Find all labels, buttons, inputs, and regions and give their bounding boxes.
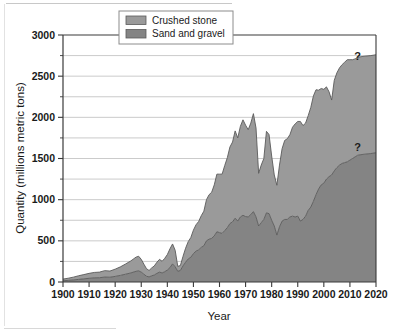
x-tick-label: 2010	[338, 288, 362, 300]
x-tick-label: 2000	[312, 288, 336, 300]
annotation-question-mark: ?	[354, 50, 361, 62]
x-tick-label: 1980	[260, 288, 284, 300]
y-axis-tick-labels: 050010001500200025003000	[32, 29, 56, 288]
y-tick-label: 1500	[32, 152, 56, 164]
y-tick-label: 3000	[32, 29, 56, 41]
x-tick-label: 1970	[234, 288, 258, 300]
legend-swatch-crushed-stone	[126, 16, 146, 25]
y-tick-label: 2000	[32, 111, 56, 123]
y-tick-label: 1000	[32, 193, 56, 205]
y-tick-label: 0	[49, 276, 55, 288]
x-axis-title: Year	[207, 310, 230, 322]
x-tick-label: 1900	[51, 288, 75, 300]
x-tick-label: 1990	[286, 288, 310, 300]
x-tick-label: 2020	[364, 288, 388, 300]
x-axis-ticks	[63, 282, 376, 287]
y-tick-label: 2500	[32, 70, 56, 82]
x-tick-label: 1930	[130, 288, 154, 300]
x-axis-tick-labels: 1900191019201930194019501960197019801990…	[51, 288, 388, 300]
x-tick-label: 1920	[103, 288, 127, 300]
legend-label-crushed-stone: Crushed stone	[152, 15, 217, 26]
x-tick-label: 1950	[182, 288, 206, 300]
legend-label-sand-and-gravel: Sand and gravel	[152, 28, 225, 39]
x-tick-label: 1940	[156, 288, 180, 300]
y-axis-title: Quantity (millions metric tons)	[14, 82, 26, 234]
y-tick-label: 500	[37, 234, 55, 246]
chart-figure: 050010001500200025003000 190019101920193…	[0, 0, 398, 333]
annotation-question-mark: ?	[354, 141, 361, 153]
x-tick-label: 1960	[208, 288, 232, 300]
legend-swatch-sand-and-gravel	[126, 30, 146, 39]
stacked-area-chart: 050010001500200025003000 190019101920193…	[0, 0, 398, 333]
y-axis-ticks	[58, 35, 63, 282]
x-tick-label: 1910	[77, 288, 101, 300]
chart-legend: Crushed stone Sand and gravel	[119, 11, 233, 44]
